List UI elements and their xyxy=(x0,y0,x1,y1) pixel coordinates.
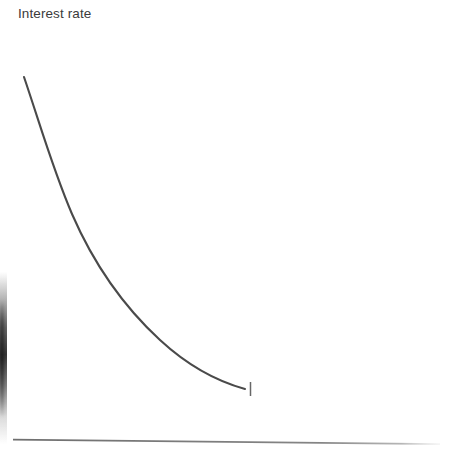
page-title: Interest rate xyxy=(18,5,91,23)
figure-canvas: Interest rate xyxy=(0,0,457,460)
chart-svg xyxy=(0,0,457,460)
x-axis-line xyxy=(13,440,440,445)
demand-curve xyxy=(24,77,245,389)
